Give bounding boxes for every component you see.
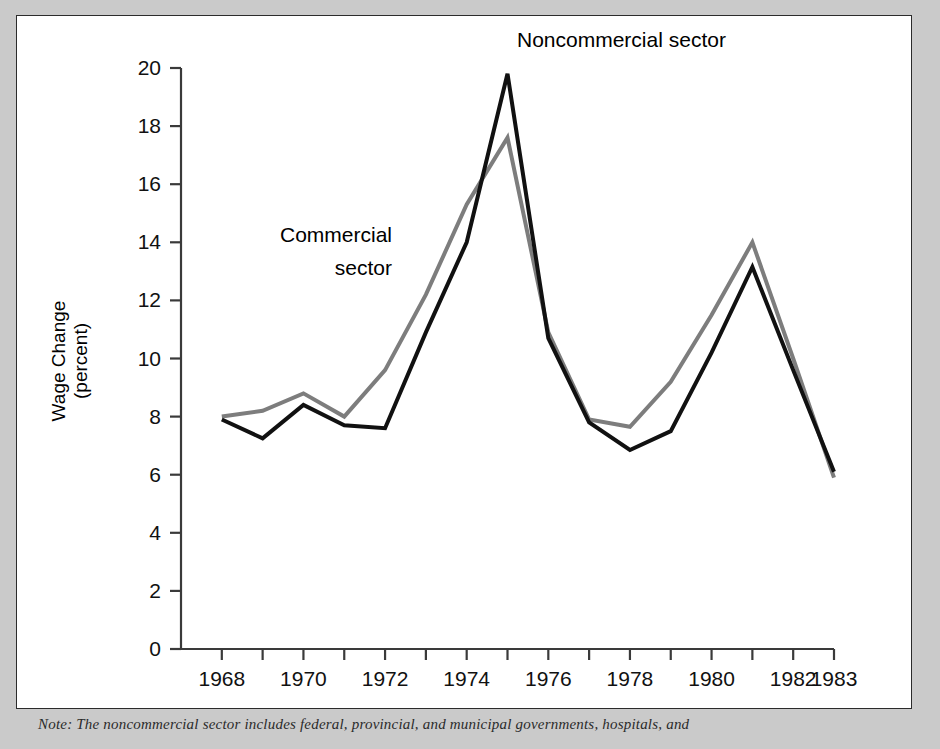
- y-axis-tick-label: 12: [138, 288, 161, 311]
- x-axis-tick-label: 1974: [443, 667, 490, 690]
- y-axis-tick-label: 14: [138, 230, 162, 253]
- y-axis-title-line2: (percent): [70, 323, 91, 399]
- x-axis-tick-label: 1980: [688, 667, 735, 690]
- x-axis-tick-label: 1970: [280, 667, 327, 690]
- page-background: 02468101214161820 1968197019721974197619…: [0, 0, 940, 749]
- chart-svg: 02468101214161820 1968197019721974197619…: [17, 16, 913, 710]
- y-axis-tick-label: 18: [138, 114, 161, 137]
- y-axis-ticks: [170, 68, 181, 649]
- figure-note-text: Note: The noncommercial sector includes …: [38, 716, 908, 733]
- x-axis-tick-labels: 196819701972197419761978198019821983: [198, 667, 857, 690]
- figure-panel: 02468101214161820 1968197019721974197619…: [16, 15, 912, 709]
- y-axis-tick-label: 6: [149, 463, 161, 486]
- x-axis-tick-label: 1982: [770, 667, 817, 690]
- x-axis-tick-label: 1976: [525, 667, 572, 690]
- y-axis-tick-label: 8: [149, 405, 161, 428]
- series-annotation-commercial-line2: sector: [335, 256, 392, 279]
- y-axis-tick-label: 2: [149, 579, 161, 602]
- series-annotation-commercial-sector: Commercial sector: [280, 223, 392, 279]
- x-axis-tick-label: 1978: [607, 667, 654, 690]
- series-line-noncommercial-sector: [222, 74, 834, 472]
- y-axis-tick-labels: 02468101214161820: [138, 56, 162, 660]
- line-chart: 02468101214161820 1968197019721974197619…: [17, 16, 913, 710]
- x-axis-tick-label: 1983: [811, 667, 858, 690]
- y-axis-title-line1: Wage Change: [48, 301, 69, 422]
- y-axis-tick-label: 16: [138, 172, 161, 195]
- y-axis-title: Wage Change (percent): [48, 301, 91, 422]
- x-axis-tick-label: 1968: [198, 667, 245, 690]
- x-axis-ticks: [222, 649, 834, 660]
- y-axis-tick-label: 20: [138, 56, 161, 79]
- series-annotation-commercial-line1: Commercial: [280, 223, 392, 246]
- figure-note: Note: The noncommercial sector includes …: [16, 714, 912, 749]
- y-axis-tick-label: 10: [138, 347, 161, 370]
- series-annotation-noncommercial-sector: Noncommercial sector: [517, 28, 726, 51]
- y-axis-tick-label: 0: [149, 637, 161, 660]
- series-line-commercial-sector: [222, 138, 834, 478]
- y-axis-tick-label: 4: [149, 521, 161, 544]
- x-axis-tick-label: 1972: [362, 667, 409, 690]
